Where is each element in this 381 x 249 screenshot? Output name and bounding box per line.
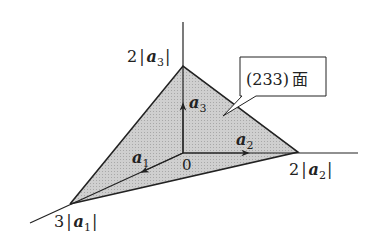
origin-label: 0	[182, 156, 192, 174]
callout-label: (233)面	[246, 70, 308, 89]
intercept-a3: 2|a3|	[127, 47, 170, 69]
crystal-plane-diagram: (233)面 a3 a2 a1 0 2|a3| 2|a2| 3|a1|	[0, 0, 381, 249]
intercept-a2: 2|a2|	[289, 160, 332, 182]
intercept-a1: 3|a1|	[54, 212, 97, 234]
